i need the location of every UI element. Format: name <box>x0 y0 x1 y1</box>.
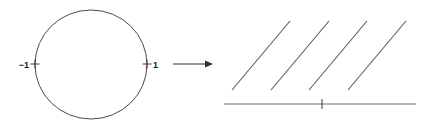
arrow-head-icon <box>205 61 213 68</box>
diagonal-segment-1 <box>232 21 290 90</box>
label-plus-one: 1 <box>153 60 158 70</box>
figure-canvas: −1 1 <box>0 0 431 126</box>
label-minus-one: −1 <box>19 60 29 70</box>
maps-to-arrow-group <box>173 61 213 68</box>
unit-circle-outline <box>35 10 147 119</box>
unit-circle-group: −1 1 <box>19 10 158 119</box>
diagonal-segment-2 <box>271 21 329 90</box>
diagonal-segment-4 <box>348 21 406 90</box>
diagonal-segment-3 <box>309 21 367 90</box>
sheared-lines-group <box>224 21 416 109</box>
figure-container: −1 1 <box>0 0 431 126</box>
